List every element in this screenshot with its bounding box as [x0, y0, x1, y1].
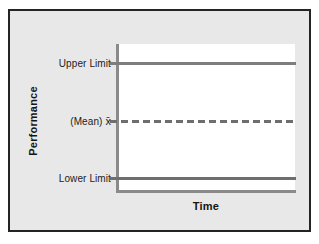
lower-limit-line: [110, 177, 296, 180]
x-axis-line: [116, 190, 296, 193]
mean-symbol-xbar: x̄: [105, 115, 111, 127]
plot-area: [117, 44, 295, 192]
upper-limit-line: [110, 62, 296, 65]
y-axis-title: Performance: [20, 11, 46, 230]
x-axis-title: Time: [117, 200, 295, 212]
y-axis-title-text: Performance: [27, 86, 39, 155]
y-axis-line: [116, 44, 119, 193]
mean-label-prefix: (Mean): [70, 116, 102, 127]
lower-limit-label: Lower Limit: [59, 173, 116, 184]
upper-limit-label: Upper Limit: [59, 58, 116, 69]
control-chart-figure: Upper Limit (Mean) x̄ Lower Limit Perfor…: [8, 9, 311, 232]
mean-label: (Mean) x̄: [70, 115, 116, 127]
mean-line: [110, 120, 296, 123]
